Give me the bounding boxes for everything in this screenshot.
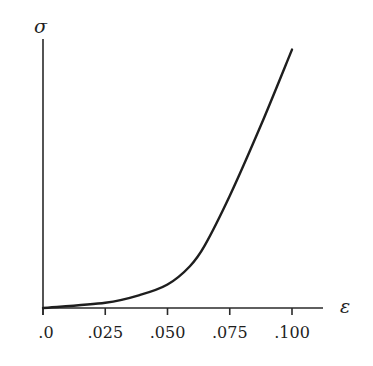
stress-strain-curve	[43, 50, 292, 308]
y-axis-label: σ	[34, 15, 48, 37]
x-axis-label: ε	[340, 295, 350, 317]
stress-strain-chart: .0.025.050.075.100 σ ε	[0, 0, 373, 366]
x-tick-label: .0	[38, 323, 53, 342]
x-ticks	[43, 308, 292, 315]
x-tick-label: .100	[274, 323, 310, 342]
x-tick-label: .025	[87, 323, 123, 342]
x-tick-labels: .0.025.050.075.100	[38, 323, 309, 342]
x-tick-label: .075	[212, 323, 248, 342]
x-tick-label: .050	[150, 323, 186, 342]
